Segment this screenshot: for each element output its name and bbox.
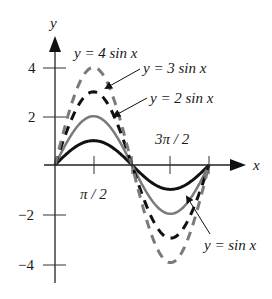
- y-tick-label-m2: −2: [18, 207, 34, 223]
- leader-arrow-3sin-icon: [106, 69, 140, 88]
- annotation-sin: y = sin x: [202, 237, 257, 253]
- sine-amplitude-chart: y x 4 2 −2 −4 π / 2 3π / 2 y = 4 sin x y…: [0, 0, 272, 299]
- y-tick-label-4: 4: [28, 60, 36, 76]
- y-tick-label-m4: −4: [18, 257, 34, 273]
- annotation-4sin: y = 4 sin x: [72, 45, 138, 61]
- annotation-3sin: y = 3 sin x: [141, 60, 207, 76]
- y-axis-arrow-icon: [49, 36, 61, 52]
- annotation-2sin: y = 2 sin x: [148, 90, 214, 106]
- leader-arrow-2sin-icon: [114, 98, 147, 116]
- y-axis-label: y: [48, 15, 57, 31]
- y-tick-label-2: 2: [28, 109, 36, 125]
- x-axis-arrow-icon: [230, 159, 246, 171]
- x-tick-label-pi-half: π / 2: [80, 186, 107, 202]
- x-axis-label: x: [252, 157, 260, 173]
- x-tick-label-three-pi-half: 3π / 2: [154, 131, 190, 147]
